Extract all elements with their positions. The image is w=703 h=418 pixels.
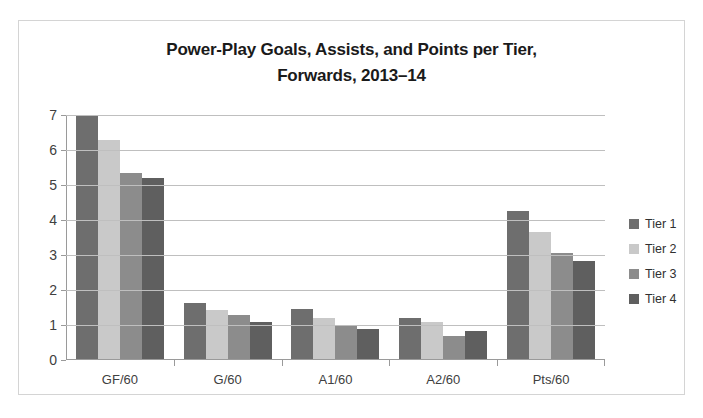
y-axis-tick-label: 0 [49,352,57,368]
gridline [66,115,605,116]
legend-swatch-icon [629,244,639,254]
bar[interactable] [573,261,595,360]
gridline [66,290,605,291]
bar[interactable] [507,211,529,360]
bar-group: G/60 [174,115,282,360]
legend-item[interactable]: Tier 2 [629,236,703,261]
legend-item[interactable]: Tier 4 [629,286,703,311]
legend-item-label: Tier 1 [645,217,677,231]
y-axis-tick-mark [61,255,66,256]
y-axis-tick-mark [61,185,66,186]
gridline [66,220,605,221]
x-axis-tick-mark [497,360,498,366]
gridline [66,150,605,151]
bar-group: A2/60 [389,115,497,360]
x-axis-tick-mark [174,360,175,366]
bar-group: Pts/60 [497,115,605,360]
x-axis-tick-label: Pts/60 [497,372,605,387]
legend-item[interactable]: Tier 1 [629,211,703,236]
gridline [66,185,605,186]
chart-title: Power-Play Goals, Assists, and Points pe… [19,37,684,89]
x-axis-tick-mark [389,360,390,366]
y-axis-tick-mark [61,325,66,326]
legend-swatch-icon [629,269,639,279]
bar[interactable] [120,173,142,360]
bar[interactable] [184,303,206,360]
y-axis-tick-mark [61,220,66,221]
bar[interactable] [335,325,357,360]
y-axis-tick-mark [61,150,66,151]
bar[interactable] [551,253,573,360]
x-axis-tick-label: A2/60 [389,372,497,387]
legend-swatch-icon [629,294,639,304]
legend-swatch-icon [629,219,639,229]
y-axis-tick-label: 7 [49,107,57,123]
x-axis-tick-label: G/60 [174,372,282,387]
bar[interactable] [529,232,551,360]
y-axis-tick-label: 1 [49,317,57,333]
gridline [66,255,605,256]
bar[interactable] [465,331,487,360]
bar-group: GF/60 [66,115,174,360]
x-axis-line [66,359,605,360]
chart-frame: Power-Play Goals, Assists, and Points pe… [18,20,685,395]
bar[interactable] [291,309,313,360]
y-axis-tick-mark [61,290,66,291]
y-axis-tick-mark [61,360,66,361]
chart-legend: Tier 1Tier 2Tier 3Tier 4 [629,211,703,311]
bar-groups: GF/60G/60A1/60A2/60Pts/60 [66,115,605,360]
legend-item[interactable]: Tier 3 [629,261,703,286]
bar[interactable] [357,329,379,361]
legend-item-label: Tier 3 [645,267,677,281]
bar[interactable] [443,336,465,360]
bar[interactable] [206,310,228,360]
bar[interactable] [250,322,272,361]
plot-area: GF/60G/60A1/60A2/60Pts/60 76543210 [66,115,605,360]
bar[interactable] [98,140,120,361]
y-axis-tick-label: 5 [49,177,57,193]
x-axis-tick-label: A1/60 [282,372,390,387]
x-axis-tick-mark [282,360,283,366]
gridline [66,325,605,326]
bar-group: A1/60 [282,115,390,360]
y-axis-tick-mark [61,115,66,116]
x-axis-tick-mark [604,360,605,366]
y-axis-tick-label: 6 [49,142,57,158]
y-axis-tick-label: 4 [49,212,57,228]
chart-title-line-1: Power-Play Goals, Assists, and Points pe… [19,37,684,63]
chart-title-line-2: Forwards, 2013–14 [19,63,684,89]
y-axis-tick-label: 2 [49,282,57,298]
bar[interactable] [76,115,98,360]
bar[interactable] [228,315,250,361]
legend-item-label: Tier 4 [645,292,677,306]
bar[interactable] [421,322,443,361]
bar[interactable] [142,178,164,360]
y-axis-tick-label: 3 [49,247,57,263]
x-axis-tick-label: GF/60 [66,372,174,387]
legend-item-label: Tier 2 [645,242,677,256]
